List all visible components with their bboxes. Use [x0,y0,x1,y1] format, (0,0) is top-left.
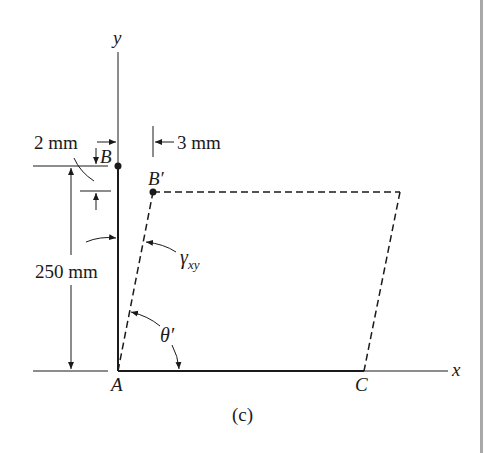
two-mm-label: 2 mm [34,133,78,152]
point-c-label: C [355,375,368,394]
point-b-dot [115,163,122,170]
point-b-label: B [100,147,112,166]
strain-diagram: y x B B′ A C 2 mm 3 mm 250 mm γxy θ′ (c) [0,0,496,453]
gamma-subscript: xy [188,257,200,272]
point-b-prime-label: B′ [148,169,164,188]
theta-arc-lower [172,345,179,369]
gamma-xy-label: γxy [180,247,199,267]
three-mm-label: 3 mm [177,133,221,152]
point-a-label: A [111,375,123,394]
page-margin-bar [480,0,483,453]
two-mm-leader [74,158,94,181]
deformed-right-edge [364,192,400,371]
y-axis-label: y [113,28,121,47]
theta-arc-upper [131,312,160,326]
theta-prime-label: θ′ [160,325,174,345]
deformed-edge-ab-prime [118,192,153,371]
figure-caption: (c) [232,405,253,424]
gamma-arc-right [146,242,176,252]
gamma-symbol: γ [180,246,188,268]
point-b-prime-dot [150,189,157,196]
x-axis-label: x [452,360,460,379]
diagram-graphics [0,0,496,453]
height-label: 250 mm [35,262,98,281]
gamma-arc-left [86,238,116,243]
